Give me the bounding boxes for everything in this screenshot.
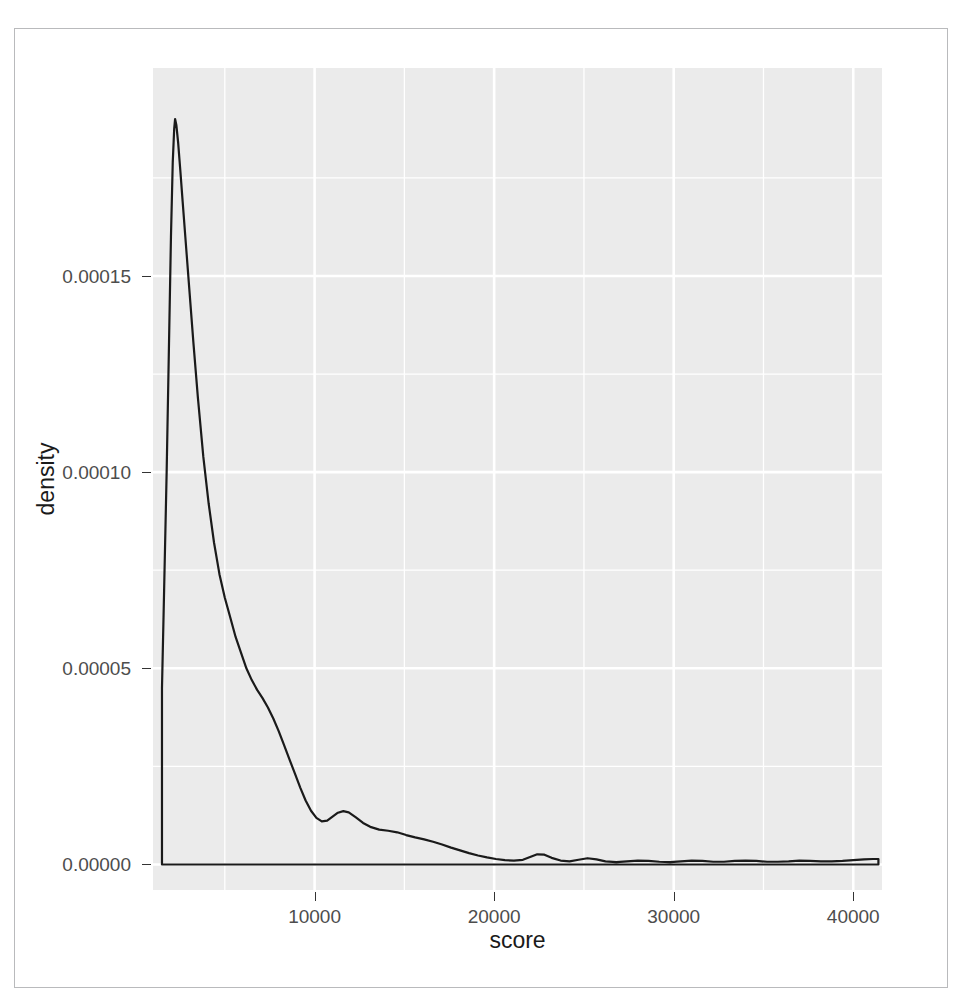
x-axis-tick-mark: [315, 892, 316, 901]
density-curve-line: [162, 119, 878, 864]
gridlines-minor: [153, 68, 882, 890]
plot-panel: [153, 68, 882, 890]
y-axis-tick-mark: [142, 472, 151, 473]
x-axis-tick-label: 40000: [827, 907, 880, 926]
plot-panel-svg: [153, 68, 882, 890]
y-axis-tick-mark: [142, 864, 151, 865]
x-axis-tick-mark: [853, 892, 854, 901]
x-axis-tick-label: 30000: [647, 907, 700, 926]
x-axis-tick-mark: [494, 892, 495, 901]
y-axis-tick-label: 0.00005: [0, 659, 131, 678]
y-axis-tick-mark: [142, 276, 151, 277]
y-axis-tick-label: 0.00015: [0, 266, 131, 285]
x-axis-tick-mark: [674, 892, 675, 901]
y-axis-title: density: [33, 443, 60, 516]
y-axis-tick-mark: [142, 668, 151, 669]
y-axis-tick-label: 0.00010: [0, 463, 131, 482]
x-axis-tick-label: 20000: [468, 907, 521, 926]
density-plot: 0.000000.000050.000100.00015 10000200003…: [0, 0, 972, 1006]
x-axis-title: score: [153, 927, 882, 954]
x-axis-tick-label: 10000: [288, 907, 341, 926]
figure-root: 0.000000.000050.000100.00015 10000200003…: [0, 0, 972, 1006]
y-axis-tick-label: 0.00000: [0, 855, 131, 874]
